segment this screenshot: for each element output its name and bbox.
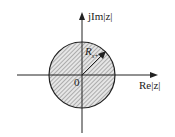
imag-axis-label: jIm|z| — [88, 10, 113, 22]
real-axis-arrow-icon — [150, 72, 158, 78]
radius-label-text: R — [85, 45, 92, 57]
radius-label: Rx+ — [85, 45, 98, 59]
real-axis-label-text: Re|z| — [139, 79, 161, 91]
radius-subscript: x+ — [92, 53, 99, 59]
imag-axis-label-text: jIm|z| — [88, 10, 113, 22]
real-axis-label: Re|z| — [139, 79, 161, 91]
origin-label: 0 — [74, 76, 80, 88]
origin-label-text: 0 — [74, 76, 80, 88]
imag-axis-arrow-icon — [79, 12, 85, 20]
